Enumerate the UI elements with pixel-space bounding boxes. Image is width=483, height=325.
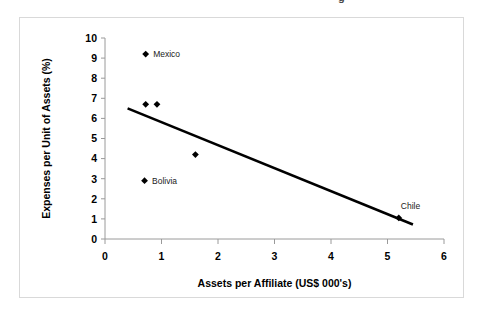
x-tick-label: 0: [102, 250, 108, 262]
data-point-label: Mexico: [153, 49, 180, 59]
clipped-text-above-figure: g: [338, 0, 356, 3]
x-axis-title: Assets per Affiliate (US$ 000's): [198, 277, 352, 289]
data-point-marker: [192, 151, 199, 158]
data-point-marker: [142, 101, 149, 108]
y-tick-label: 3: [91, 173, 97, 185]
x-tick-label: 3: [272, 250, 278, 262]
y-tick-label: 6: [91, 112, 97, 124]
y-axis-tick-labels: 012345678910: [85, 32, 97, 245]
x-tick-label: 2: [215, 250, 221, 262]
y-tick-label: 8: [91, 72, 97, 84]
y-axis-title: Expenses per Unit of Assets (%): [40, 58, 52, 219]
trend-line: [128, 108, 413, 224]
x-tick-label: 6: [441, 250, 447, 262]
y-tick-label: 9: [91, 52, 97, 64]
y-tick-label: 10: [85, 32, 97, 44]
y-tick-label: 1: [91, 213, 97, 225]
data-point-marker: [154, 101, 161, 108]
scatter-chart: 012345678910 0123456 Expenses per Unit o…: [20, 18, 463, 297]
y-axis-ticks: [101, 38, 105, 239]
x-axis-tick-labels: 0123456: [102, 250, 447, 262]
chart-figure-frame: 012345678910 0123456 Expenses per Unit o…: [19, 17, 464, 298]
x-axis-ticks: [105, 239, 444, 244]
y-tick-label: 2: [91, 193, 97, 205]
x-tick-label: 4: [328, 250, 334, 262]
y-tick-label: 4: [91, 152, 97, 164]
data-point-series: [141, 51, 402, 222]
x-tick-label: 1: [159, 250, 165, 262]
chart-axes: [101, 38, 444, 244]
data-point-marker: [141, 177, 148, 184]
data-point-marker: [142, 51, 149, 58]
y-tick-label: 0: [91, 233, 97, 245]
data-point-label: Chile: [401, 201, 421, 211]
y-tick-label: 7: [91, 92, 97, 104]
x-tick-label: 5: [385, 250, 391, 262]
y-tick-label: 5: [91, 132, 97, 144]
data-point-label: Bolivia: [152, 176, 177, 186]
data-point-labels: MexicoBoliviaChile: [152, 49, 420, 211]
